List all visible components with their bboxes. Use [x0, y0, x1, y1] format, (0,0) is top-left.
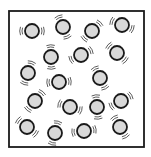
particle-circle — [56, 20, 70, 34]
particle-circle — [77, 124, 91, 138]
particle-circle — [113, 120, 127, 134]
particle-circle — [52, 75, 66, 89]
particle-circle — [21, 66, 35, 80]
particle-circle — [44, 50, 58, 64]
particle-circle — [74, 48, 88, 62]
particle-circle — [20, 120, 34, 134]
particle-circle — [85, 24, 99, 38]
particle-circle — [48, 126, 62, 140]
particle-circle — [25, 24, 39, 38]
particle-circle — [90, 100, 104, 114]
particle-circle — [28, 94, 42, 108]
particle-circle — [115, 18, 129, 32]
particle-circle — [63, 100, 77, 114]
gas-particles-diagram — [0, 0, 151, 157]
particle-circle — [110, 46, 124, 60]
particle-circle — [93, 71, 107, 85]
particle-circle — [114, 94, 128, 108]
